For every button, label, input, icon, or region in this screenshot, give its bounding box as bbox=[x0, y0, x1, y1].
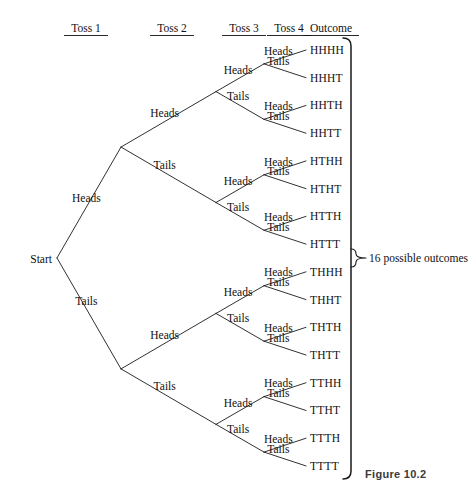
outcome-bracket bbox=[343, 38, 366, 479]
outcome-HHHH: HHHH bbox=[310, 44, 344, 56]
branch-label-l1-0-heads: Heads bbox=[72, 192, 101, 204]
branch-label-l3-3-tails: Tails bbox=[227, 201, 250, 213]
start-label: Start bbox=[30, 253, 53, 265]
outcome-TTTH: TTTH bbox=[310, 432, 340, 444]
branch-label-l4-1-tails: Tails bbox=[267, 55, 290, 67]
branch-label-l4-5-tails: Tails bbox=[267, 165, 290, 177]
column-header-3: Toss 3 bbox=[229, 22, 259, 34]
coin-toss-tree-diagram: Toss 1Toss 2Toss 3Toss 4Outcome HeadsTai… bbox=[0, 0, 473, 501]
branch-labels: HeadsTailsHeadsTailsHeadsTailsHeadsTails… bbox=[72, 45, 293, 455]
branch-label-l4-9-tails: Tails bbox=[267, 276, 290, 288]
column-header-5: Outcome bbox=[310, 22, 352, 34]
column-header-2: Toss 2 bbox=[157, 22, 187, 34]
branch-label-l4-15-tails: Tails bbox=[267, 443, 290, 455]
branch-label-l2-1-tails: Tails bbox=[154, 159, 177, 171]
outcome-HTTT: HTTT bbox=[310, 238, 340, 250]
column-headers: Toss 1Toss 2Toss 3Toss 4Outcome bbox=[64, 22, 359, 36]
outcome-TTHH: TTHH bbox=[310, 377, 341, 389]
outcome-HTTH: HTTH bbox=[310, 210, 341, 222]
outcome-THHT: THHT bbox=[310, 294, 341, 306]
bracket-pointer bbox=[351, 249, 366, 267]
branch-l2-2 bbox=[121, 313, 216, 368]
branch-l2-3 bbox=[121, 369, 216, 424]
outcome-TTTT: TTTT bbox=[310, 460, 339, 472]
branch-label-l4-7-tails: Tails bbox=[267, 221, 290, 233]
start-node: Start bbox=[30, 253, 53, 265]
branch-label-l3-1-tails: Tails bbox=[227, 90, 250, 102]
branch-label-l1-1-tails: Tails bbox=[75, 295, 98, 307]
outcome-THTT: THTT bbox=[310, 349, 340, 361]
summary-annotation: 16 possible outcomes bbox=[369, 252, 469, 265]
outcome-labels: HHHHHHHTHHTHHHTTHTHHHTHTHTTHHTTTTHHHTHHT… bbox=[310, 44, 344, 472]
branch-label-l3-7-tails: Tails bbox=[227, 423, 250, 435]
outcome-THHH: THHH bbox=[310, 266, 343, 278]
branch-label-l4-3-tails: Tails bbox=[267, 110, 290, 122]
possible-outcomes-text: 16 possible outcomes bbox=[369, 252, 469, 265]
branch-label-l3-2-heads: Heads bbox=[224, 175, 253, 187]
outcome-HHTH: HHTH bbox=[310, 99, 343, 111]
branch-label-l4-13-tails: Tails bbox=[267, 387, 290, 399]
branch-label-l2-0-heads: Heads bbox=[150, 107, 179, 119]
outcome-bracket-path bbox=[343, 38, 351, 479]
outcome-TTHT: TTHT bbox=[310, 404, 340, 416]
column-header-1: Toss 1 bbox=[71, 22, 101, 34]
branch-l1-1 bbox=[57, 258, 121, 369]
branch-label-l4-11-tails: Tails bbox=[267, 332, 290, 344]
figure-root: Toss 1Toss 2Toss 3Toss 4Outcome HeadsTai… bbox=[0, 0, 473, 501]
figure-caption: Figure 10.2 bbox=[365, 468, 426, 480]
branch-label-l3-0-heads: Heads bbox=[224, 64, 253, 76]
branch-label-l3-4-heads: Heads bbox=[224, 286, 253, 298]
outcome-HHHT: HHHT bbox=[310, 72, 343, 84]
branch-l2-0 bbox=[121, 92, 216, 147]
column-header-4: Toss 4 bbox=[274, 22, 304, 34]
branch-label-l2-2-heads: Heads bbox=[150, 329, 179, 341]
outcome-THTH: THTH bbox=[310, 321, 341, 333]
outcome-HHTT: HHTT bbox=[310, 127, 341, 139]
branch-label-l3-5-tails: Tails bbox=[227, 312, 250, 324]
branch-l2-1 bbox=[121, 147, 216, 202]
outcome-HTHH: HTHH bbox=[310, 155, 343, 167]
branch-label-l3-6-heads: Heads bbox=[224, 397, 253, 409]
branch-label-l2-3-tails: Tails bbox=[154, 380, 177, 392]
outcome-HTHT: HTHT bbox=[310, 183, 341, 195]
